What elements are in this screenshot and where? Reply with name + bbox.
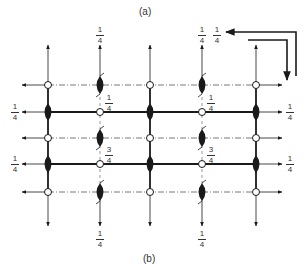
screw-axis-tick xyxy=(100,180,104,183)
fraction-label-corner: 14 xyxy=(212,26,222,45)
screw-axis-icon xyxy=(97,183,104,201)
screw-axis-tick xyxy=(198,147,202,150)
screw-axis-tick xyxy=(198,201,202,204)
inversion-center-icon xyxy=(45,82,52,89)
corner-axis-indicator xyxy=(226,32,296,80)
screw-axis-icon xyxy=(147,103,154,121)
inversion-center-icon xyxy=(97,161,104,168)
fraction-label-col4-bottom: 14 xyxy=(197,230,207,249)
fraction-label-row1-left: 14 xyxy=(10,103,20,122)
fraction-label-col2-bottom: 14 xyxy=(95,230,105,249)
screw-axis-icon xyxy=(97,129,104,147)
fraction-label-row3-right: 14 xyxy=(285,155,295,174)
screw-axis-icon xyxy=(45,155,52,173)
inversion-center-icon xyxy=(45,135,52,142)
inversion-center-icon xyxy=(253,82,260,89)
inversion-center-icon xyxy=(253,189,260,196)
screw-axis-icon xyxy=(253,103,260,121)
inversion-center-icon xyxy=(97,109,104,116)
inversion-center-icon xyxy=(147,82,154,89)
symmetry-symbols xyxy=(45,73,260,204)
screw-axis-tick xyxy=(96,147,100,150)
screw-axis-tick xyxy=(96,201,100,204)
screw-axis-icon xyxy=(147,155,154,173)
screw-axis-tick xyxy=(100,73,104,76)
outer-corner-arrow xyxy=(226,32,296,76)
screw-axis-tick xyxy=(198,94,202,97)
fraction-label-col2-top: 14 xyxy=(95,26,105,45)
screw-axis-icon xyxy=(45,103,52,121)
fraction-label-row1-right: 14 xyxy=(285,103,295,122)
fraction-label-inner-r3c2: 34 xyxy=(104,146,114,165)
fraction-label-row3-left: 14 xyxy=(10,155,20,174)
inversion-center-icon xyxy=(199,109,206,116)
fraction-label-inner-r3c4: 34 xyxy=(206,146,216,165)
fraction-label-inner-r1c2: 14 xyxy=(104,94,114,113)
screw-axis-tick xyxy=(202,180,206,183)
screw-axis-icon xyxy=(253,155,260,173)
screw-axis-tick xyxy=(96,94,100,97)
fraction-label-inner-r1c4: 14 xyxy=(206,94,216,113)
inversion-center-icon xyxy=(147,135,154,142)
screw-axis-icon xyxy=(97,76,104,94)
inner-corner-arrow xyxy=(248,40,287,80)
fraction-label-col4-top: 14 xyxy=(197,26,207,45)
screw-axis-tick xyxy=(202,73,206,76)
space-group-diagram xyxy=(0,0,307,279)
inversion-center-icon xyxy=(147,189,154,196)
inversion-center-icon xyxy=(199,161,206,168)
inversion-center-icon xyxy=(45,189,52,196)
screw-axis-icon xyxy=(199,183,206,201)
caption-b: (b) xyxy=(143,253,155,264)
screw-axis-icon xyxy=(199,76,206,94)
screw-axis-tick xyxy=(100,126,104,129)
symmetry-diagram: (a) (b) 14 14 14 14 14 14 14 14 14 34 34… xyxy=(0,0,307,279)
screw-axis-icon xyxy=(199,129,206,147)
caption-a: (a) xyxy=(139,6,151,17)
screw-axis-tick xyxy=(202,126,206,129)
inversion-center-icon xyxy=(253,135,260,142)
